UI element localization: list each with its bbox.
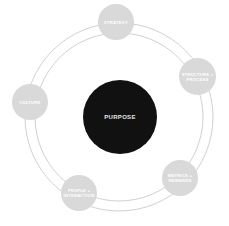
node-label: PEOPLE + INTERACTION xyxy=(64,188,95,198)
node-label: CULTURE xyxy=(19,100,40,105)
center-label: PURPOSE xyxy=(104,114,135,120)
node-culture: CULTURE xyxy=(12,84,48,120)
node-structure-process: STRUCTURE + PROCESS xyxy=(179,58,216,95)
node-people-interaction: PEOPLE + INTERACTION xyxy=(61,175,97,211)
node-label: METRICS + REWARDS xyxy=(168,173,192,183)
center-node-purpose: PURPOSE xyxy=(83,80,157,154)
node-label: STRATEGY xyxy=(104,20,128,25)
node-metrics-rewards: METRICS + REWARDS xyxy=(162,160,198,196)
node-strategy: STRATEGY xyxy=(98,4,134,40)
node-label: STRUCTURE + PROCESS xyxy=(182,72,214,82)
